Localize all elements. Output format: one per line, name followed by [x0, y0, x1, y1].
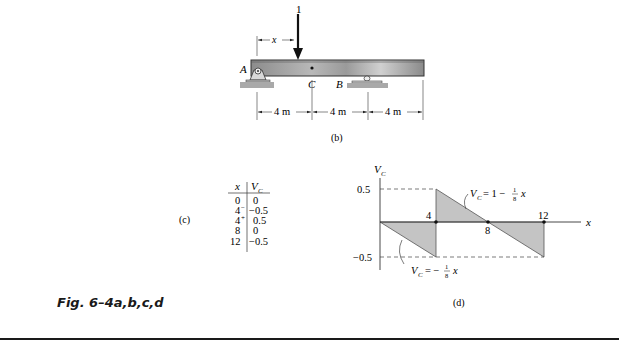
table-cell: 12	[230, 236, 241, 247]
x-dimension-label: x	[271, 34, 277, 45]
svg-text:x: x	[452, 265, 458, 276]
x-tick-12: 12	[538, 210, 549, 221]
divider-rule	[0, 338, 619, 340]
roller-support-b-icon	[347, 76, 388, 88]
svg-text:= −: = −	[425, 265, 440, 276]
negative-region-2	[488, 222, 544, 257]
beam	[251, 60, 424, 76]
table-header-v-sub: C	[258, 187, 263, 195]
equation-lower: V C = − 1 8 x	[411, 263, 458, 279]
table-header-x: x	[234, 180, 240, 192]
svg-text:= 1 −: = 1 −	[483, 188, 505, 199]
equation-upper: V C = 1 − 1 8 x	[470, 186, 526, 202]
table-cell: 8	[235, 225, 240, 236]
point-c-marker	[310, 66, 313, 69]
y-tick-bottom: −0.5	[353, 252, 372, 263]
table-figure: (c) x V C 0 0 4 − −0.5 4 + 0.5 8 0 12 −0…	[179, 180, 270, 252]
svg-text:8: 8	[513, 195, 516, 202]
subcaption-b: (b)	[331, 132, 343, 144]
x-tick-4: 4	[426, 210, 432, 221]
negative-region-1	[380, 222, 436, 257]
svg-text:1: 1	[513, 186, 516, 193]
dimension-1: 4 m	[274, 106, 290, 117]
figure-caption: Fig. 6–4a,b,c,d	[57, 295, 164, 310]
svg-text:x: x	[520, 188, 526, 199]
table-cell-sup: +	[241, 214, 245, 222]
table-cell-sup: −	[241, 204, 245, 212]
support-a-label: A	[239, 63, 247, 75]
svg-text:8: 8	[445, 272, 448, 279]
influence-line-chart: V C x 0.5 −0.5 4 8 12 V C = 1 − 1 8 x V …	[353, 163, 591, 309]
x-tick-8: 8	[485, 225, 490, 236]
y-axis-label-sub: C	[381, 170, 386, 178]
dimension-2: 4 m	[330, 106, 346, 117]
table-cell: −0.5	[249, 236, 268, 247]
subcaption-d: (d)	[453, 297, 465, 309]
y-tick-top: 0.5	[357, 184, 370, 195]
svg-text:C: C	[477, 194, 482, 202]
dimension-3: 4 m	[385, 106, 401, 117]
table-cell: 0	[253, 225, 258, 236]
support-b-label: B	[336, 78, 343, 90]
x-axis-label: x	[585, 216, 591, 228]
svg-text:C: C	[418, 271, 423, 279]
svg-text:1: 1	[445, 263, 448, 270]
subcaption-c: (c)	[179, 214, 190, 226]
beam-figure: 1 x A B C	[239, 3, 424, 144]
load-label: 1	[296, 3, 302, 15]
